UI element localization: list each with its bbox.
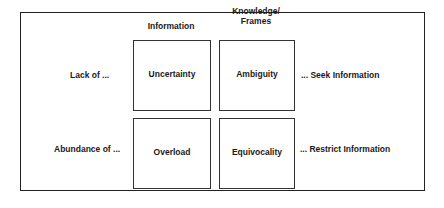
- outcome-seek-information: ... Seek Information: [301, 70, 379, 80]
- column-header-knowledge-frames: Knowledge/ Frames: [232, 6, 280, 26]
- cell-equivocality-label: Equivocality: [232, 147, 282, 157]
- outcome-restrict-information: ... Restrict Information: [300, 144, 390, 154]
- cell-uncertainty-label: Uncertainty: [149, 69, 196, 79]
- column-header-knowledge-line1: Knowledge/: [232, 6, 280, 16]
- cell-uncertainty: Uncertainty: [133, 40, 211, 111]
- cell-overload-label: Overload: [154, 147, 191, 157]
- row-label-lack: Lack of ...: [70, 70, 109, 80]
- column-header-information: Information: [148, 21, 195, 31]
- cell-ambiguity-label: Ambiguity: [236, 69, 278, 79]
- row-label-abundance: Abundance of ...: [54, 144, 120, 154]
- cell-ambiguity: Ambiguity: [219, 40, 295, 111]
- cell-equivocality: Equivocality: [219, 118, 295, 189]
- cell-overload: Overload: [133, 118, 211, 189]
- column-header-knowledge-line2: Frames: [232, 16, 280, 26]
